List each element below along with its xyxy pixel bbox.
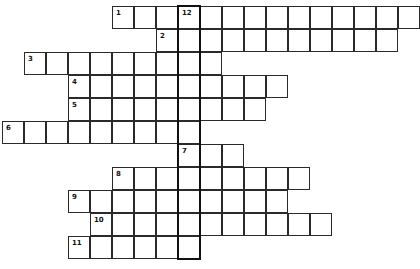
crossword-cell[interactable]: [112, 121, 134, 144]
crossword-cell[interactable]: [178, 236, 200, 259]
crossword-cell[interactable]: [222, 6, 244, 29]
crossword-cell[interactable]: [90, 75, 112, 98]
crossword-cell[interactable]: [354, 29, 376, 52]
crossword-cell[interactable]: [310, 29, 332, 52]
crossword-cell[interactable]: 4: [68, 75, 90, 98]
crossword-cell[interactable]: [354, 6, 376, 29]
crossword-cell[interactable]: 3: [24, 52, 46, 75]
crossword-cell[interactable]: 10: [90, 213, 112, 236]
crossword-cell[interactable]: [178, 98, 200, 121]
crossword-cell[interactable]: [90, 52, 112, 75]
crossword-cell[interactable]: [134, 213, 156, 236]
crossword-cell[interactable]: [90, 190, 112, 213]
crossword-cell[interactable]: [266, 29, 288, 52]
crossword-cell[interactable]: [288, 6, 310, 29]
crossword-cell[interactable]: [68, 121, 90, 144]
crossword-cell[interactable]: [46, 121, 68, 144]
crossword-cell[interactable]: [222, 190, 244, 213]
crossword-cell[interactable]: [134, 121, 156, 144]
crossword-cell[interactable]: [90, 98, 112, 121]
crossword-cell[interactable]: [134, 6, 156, 29]
crossword-cell[interactable]: [156, 52, 178, 75]
crossword-cell[interactable]: [134, 167, 156, 190]
crossword-cell[interactable]: [200, 213, 222, 236]
crossword-cell[interactable]: [222, 75, 244, 98]
crossword-cell[interactable]: [134, 236, 156, 259]
crossword-cell[interactable]: [266, 213, 288, 236]
crossword-cell[interactable]: [288, 213, 310, 236]
crossword-cell[interactable]: [200, 6, 222, 29]
crossword-cell[interactable]: [266, 6, 288, 29]
crossword-cell[interactable]: [244, 190, 266, 213]
crossword-cell[interactable]: [332, 29, 354, 52]
crossword-cell[interactable]: [156, 75, 178, 98]
crossword-cell[interactable]: [244, 6, 266, 29]
crossword-cell[interactable]: [156, 190, 178, 213]
crossword-cell[interactable]: [112, 75, 134, 98]
crossword-cell[interactable]: [156, 6, 178, 29]
crossword-cell[interactable]: [112, 213, 134, 236]
crossword-cell[interactable]: 7: [178, 144, 200, 167]
crossword-cell[interactable]: [222, 98, 244, 121]
crossword-cell[interactable]: [200, 29, 222, 52]
crossword-cell[interactable]: [222, 167, 244, 190]
crossword-cell[interactable]: [222, 144, 244, 167]
crossword-cell[interactable]: [178, 190, 200, 213]
crossword-cell[interactable]: [134, 190, 156, 213]
crossword-cell[interactable]: [156, 167, 178, 190]
crossword-cell[interactable]: [178, 75, 200, 98]
crossword-cell[interactable]: [200, 75, 222, 98]
crossword-cell[interactable]: [112, 98, 134, 121]
crossword-cell[interactable]: [200, 52, 222, 75]
crossword-cell[interactable]: [178, 167, 200, 190]
crossword-cell[interactable]: [68, 52, 90, 75]
crossword-cell[interactable]: [200, 144, 222, 167]
crossword-cell[interactable]: [90, 236, 112, 259]
crossword-cell[interactable]: [112, 236, 134, 259]
crossword-cell[interactable]: [156, 236, 178, 259]
crossword-cell[interactable]: [178, 213, 200, 236]
crossword-cell[interactable]: [244, 213, 266, 236]
crossword-cell[interactable]: [178, 29, 200, 52]
crossword-cell[interactable]: [266, 75, 288, 98]
crossword-cell[interactable]: [244, 29, 266, 52]
crossword-cell[interactable]: [156, 213, 178, 236]
crossword-cell[interactable]: [200, 167, 222, 190]
crossword-cell[interactable]: 5: [68, 98, 90, 121]
crossword-cell[interactable]: [288, 29, 310, 52]
crossword-cell[interactable]: [200, 190, 222, 213]
crossword-cell[interactable]: [398, 6, 420, 29]
crossword-cell[interactable]: 2: [156, 29, 178, 52]
crossword-cell[interactable]: 11: [68, 236, 90, 259]
crossword-cell[interactable]: [200, 98, 222, 121]
crossword-cell[interactable]: [376, 29, 398, 52]
crossword-cell[interactable]: 9: [68, 190, 90, 213]
crossword-cell[interactable]: [310, 6, 332, 29]
crossword-cell[interactable]: [134, 52, 156, 75]
crossword-cell[interactable]: [24, 121, 46, 144]
crossword-cell[interactable]: [376, 6, 398, 29]
crossword-cell[interactable]: [156, 98, 178, 121]
crossword-cell[interactable]: [112, 52, 134, 75]
crossword-cell[interactable]: [134, 98, 156, 121]
crossword-cell[interactable]: [266, 167, 288, 190]
crossword-cell[interactable]: [90, 121, 112, 144]
crossword-cell[interactable]: [310, 213, 332, 236]
crossword-cell[interactable]: [288, 167, 310, 190]
crossword-cell[interactable]: [244, 75, 266, 98]
crossword-cell[interactable]: [244, 167, 266, 190]
crossword-cell[interactable]: [134, 75, 156, 98]
crossword-cell[interactable]: [222, 29, 244, 52]
crossword-cell[interactable]: [46, 52, 68, 75]
crossword-cell[interactable]: [178, 121, 200, 144]
crossword-cell[interactable]: [266, 190, 288, 213]
crossword-cell[interactable]: [178, 52, 200, 75]
crossword-cell[interactable]: 8: [112, 167, 134, 190]
crossword-cell[interactable]: 1: [112, 6, 134, 29]
crossword-cell[interactable]: [222, 213, 244, 236]
crossword-cell[interactable]: [332, 6, 354, 29]
crossword-cell[interactable]: 12: [178, 6, 200, 29]
crossword-cell[interactable]: [244, 98, 266, 121]
crossword-cell[interactable]: [156, 121, 178, 144]
crossword-cell[interactable]: 6: [2, 121, 24, 144]
